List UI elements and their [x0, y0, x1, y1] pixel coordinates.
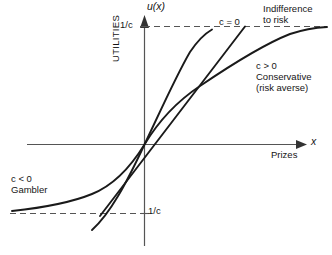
axes-group: [27, 15, 307, 246]
asymptote-group: [10, 27, 327, 214]
curve-c-greater-than-zero: [12, 27, 327, 211]
curve-c-equals-zero: [100, 27, 245, 217]
utility-function-chart: u(x) UTILITIES x Prizes 1/c 1/c c = 0 In…: [0, 0, 332, 255]
x-axis-sublabel: Prizes: [271, 150, 297, 161]
series-label-conservative-risk-averse: c > 0 Conservative (risk averse): [256, 60, 311, 93]
y-axis-label: u(x): [147, 1, 165, 12]
series-label-gambler: c < 0 Gambler: [11, 173, 47, 195]
lower-asymptote-tick-label: 1/c: [148, 206, 161, 217]
x-axis-label: x: [311, 136, 316, 147]
chart-plot-area: [0, 0, 332, 255]
x-axis-arrowhead: [296, 140, 307, 149]
series-label-c-equals-zero: c = 0: [219, 17, 240, 28]
curves-group: [12, 27, 327, 231]
series-label-indifference-to-risk: Indifference to risk: [263, 3, 312, 25]
upper-asymptote-tick-label: 1/c: [120, 20, 133, 31]
